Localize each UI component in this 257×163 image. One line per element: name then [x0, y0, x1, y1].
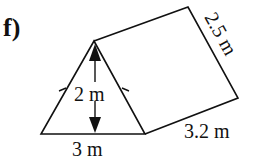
slant-label: 2.5 m [201, 8, 243, 59]
part-label: f) [3, 13, 20, 42]
height-label: 2 m [74, 83, 105, 105]
arrow-down-icon [89, 117, 101, 133]
length-label: 3.2 m [184, 120, 230, 142]
base-label: 3 m [72, 138, 103, 160]
prism-diagram: f) 2 m 3 m 3.2 m 2.5 m [0, 0, 257, 163]
equal-side-tick-right [122, 88, 129, 91]
